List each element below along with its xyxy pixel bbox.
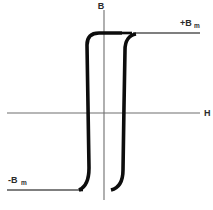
axes-group [7, 10, 200, 200]
negative-saturation-label: -B [8, 175, 18, 185]
positive-saturation-subscript: m [194, 22, 200, 29]
hysteresis-loop-group [79, 33, 136, 190]
labels-group: B H +B m -B m [8, 1, 211, 186]
vertical-axis-label: B [98, 1, 105, 11]
loop-descending-branch [79, 33, 122, 190]
loop-ascending-branch [111, 34, 136, 190]
negative-saturation-subscript: m [21, 179, 27, 186]
positive-saturation-label: +B [180, 18, 192, 28]
horizontal-axis-label: H [204, 108, 211, 118]
hysteresis-plot-canvas: B H +B m -B m [0, 0, 213, 210]
hysteresis-figure: B H +B m -B m [0, 0, 213, 210]
